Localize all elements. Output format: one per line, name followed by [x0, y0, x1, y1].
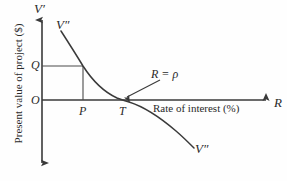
x-axis-title: Rate of interest (%) — [153, 103, 239, 114]
present-value-curve — [61, 31, 194, 148]
x-axis-end-label: R — [274, 96, 282, 109]
annotation-r-equals-rho: R = ρ — [151, 68, 178, 80]
point-label-q: Q — [31, 59, 40, 71]
point-label-p: P — [79, 105, 86, 117]
y-axis-title: Present value of project ($) — [13, 9, 24, 159]
point-label-origin: O — [31, 94, 40, 106]
y-axis-end-label: V′ — [34, 2, 45, 15]
point-label-t: T — [119, 105, 126, 117]
curve-label-bottom: V″ — [195, 142, 208, 155]
annotation-leader-arrow — [127, 80, 160, 97]
figure-canvas — [0, 0, 287, 181]
curve-label-top: V″ — [56, 18, 69, 31]
present-value-curve-figure: V′ R V″ V″ O Q P T R = ρ Rate of interes… — [0, 0, 287, 181]
